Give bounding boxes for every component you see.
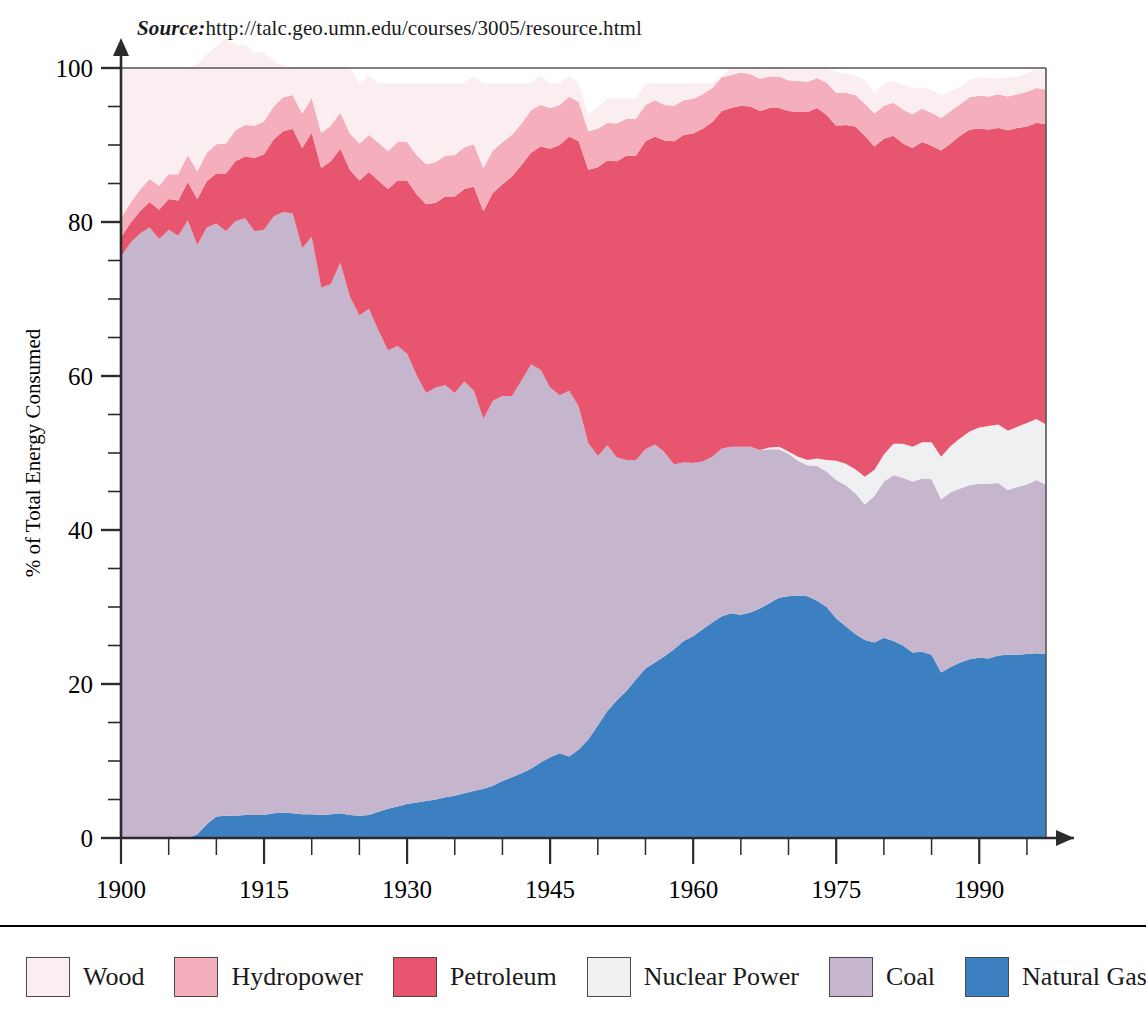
legend-item-wood[interactable]: Wood — [26, 957, 174, 997]
legend-item-natural-gas[interactable]: Natural Gas — [965, 957, 1146, 997]
legend-label: Coal — [886, 962, 935, 992]
legend-label: Wood — [83, 962, 144, 992]
x-axis-arrowhead — [1056, 830, 1074, 846]
legend-swatch-petroleum — [393, 957, 437, 997]
legend-label: Natural Gas — [1022, 962, 1146, 992]
legend-swatch-natural-gas — [965, 957, 1009, 997]
y-tick-label-0: 0 — [81, 825, 94, 852]
legend-divider — [0, 925, 1146, 927]
stacked-area-chart: 0204060801001900191519301945196019751990… — [0, 0, 1146, 925]
legend-swatch-wood — [26, 957, 70, 997]
y-tick-label-40: 40 — [68, 517, 93, 544]
legend-item-coal[interactable]: Coal — [829, 957, 965, 997]
figure: Source:http://talc.geo.umn.edu/courses/3… — [0, 0, 1146, 1026]
source-url: http://talc.geo.umn.edu/courses/3005/res… — [205, 16, 642, 40]
y-tick-label-60: 60 — [68, 363, 93, 390]
legend-label: Hydropower — [231, 962, 362, 992]
x-tick-label-1900: 1900 — [96, 876, 146, 903]
chart-legend: WoodHydropowerPetroleumNuclear PowerCoal… — [0, 938, 1146, 1016]
legend-item-hydropower[interactable]: Hydropower — [174, 957, 392, 997]
x-tick-label-1975: 1975 — [811, 876, 861, 903]
x-tick-label-1945: 1945 — [525, 876, 575, 903]
y-tick-label-100: 100 — [56, 55, 94, 82]
legend-label: Nuclear Power — [644, 962, 799, 992]
legend-row: WoodHydropowerPetroleumNuclear PowerCoal… — [0, 938, 1146, 1016]
source-caption: Source:http://talc.geo.umn.edu/courses/3… — [137, 16, 642, 41]
source-label: Source: — [137, 16, 205, 40]
x-tick-label-1990: 1990 — [954, 876, 1004, 903]
y-axis-label: % of Total Energy Consumed — [21, 328, 45, 577]
y-axis-arrowhead — [113, 38, 129, 56]
x-tick-label-1930: 1930 — [382, 876, 432, 903]
legend-item-petroleum[interactable]: Petroleum — [393, 957, 587, 997]
legend-label: Petroleum — [450, 962, 557, 992]
legend-swatch-coal — [829, 957, 873, 997]
x-tick-label-1960: 1960 — [668, 876, 718, 903]
legend-item-nuclear-power[interactable]: Nuclear Power — [587, 957, 829, 997]
legend-swatch-nuclear-power — [587, 957, 631, 997]
y-tick-label-20: 20 — [68, 671, 93, 698]
legend-swatch-hydropower — [174, 957, 218, 997]
area-series-group — [121, 38, 1046, 838]
x-tick-label-1915: 1915 — [239, 876, 289, 903]
y-tick-label-80: 80 — [68, 209, 93, 236]
